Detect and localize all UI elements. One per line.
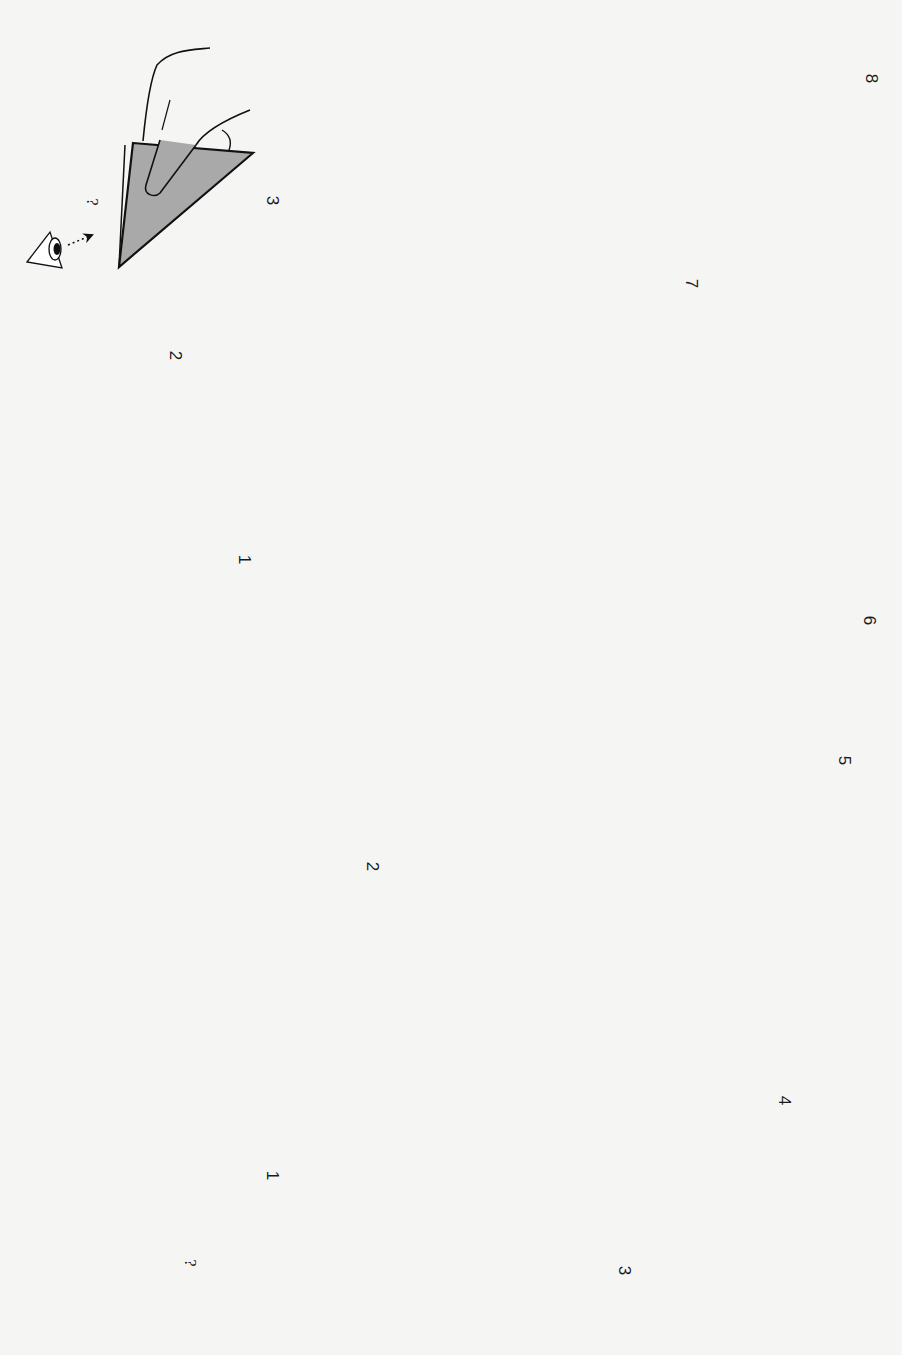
seq-b-step-label-3: 3 — [264, 196, 281, 205]
cut-question-mark: ? — [181, 1259, 199, 1266]
step-label-2: 2 — [364, 862, 381, 871]
diagram-canvas — [0, 0, 902, 1355]
seq-b-step-3-hand-model — [119, 48, 253, 267]
origami-diagram-page: 8 7 6 5 4 3 2 1 ? 1 2 3 ? — [0, 0, 902, 1355]
seq-b-step-label-1: 1 — [236, 555, 253, 564]
step-label-7: 7 — [683, 279, 700, 288]
seq-b-step-label-2: 2 — [167, 351, 184, 360]
step-label-5: 5 — [836, 756, 853, 765]
step-label-8: 8 — [863, 74, 880, 83]
view-question-mark: ? — [83, 198, 101, 205]
step-label-4: 4 — [776, 1096, 793, 1105]
eye-icon — [27, 232, 92, 268]
step-label-1: 1 — [264, 1171, 281, 1180]
step-label-6: 6 — [861, 616, 878, 625]
step-label-3: 3 — [616, 1266, 633, 1275]
